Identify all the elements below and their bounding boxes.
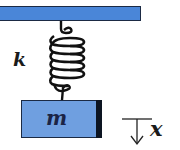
spring-constant-label: k: [13, 50, 26, 69]
mass-block-shadow: [96, 100, 102, 138]
mass-label: m: [46, 108, 67, 128]
displacement-label: x: [150, 118, 163, 139]
spring-coils: [50, 36, 84, 86]
displacement-arrow-icon: [122, 119, 152, 144]
